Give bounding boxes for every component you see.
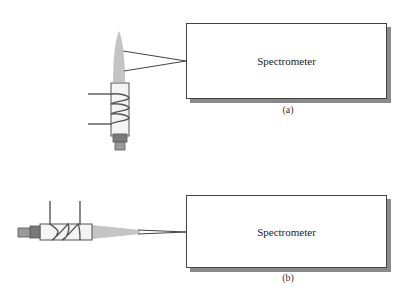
torch-nozzle-vertical [113, 134, 127, 142]
flame-horizontal [92, 225, 140, 239]
view-line-lower-b [138, 232, 186, 234]
view-line-upper [123, 51, 186, 61]
spectrometer-box-b: Spectrometer [186, 195, 387, 268]
flame-vertical [113, 31, 125, 82]
spectrometer-label-b: Spectrometer [257, 226, 316, 238]
caption-a: (a) [268, 104, 308, 115]
horizontal-torch [18, 201, 186, 240]
torch-nozzle-tip-vertical [115, 142, 125, 150]
spectrometer-box-a: Spectrometer [186, 23, 387, 99]
spectrometer-label-a: Spectrometer [257, 55, 316, 67]
view-line-lower [124, 61, 186, 71]
torch-nozzle-horizontal [30, 226, 40, 238]
vertical-torch [88, 31, 186, 150]
view-line-upper-b [138, 230, 186, 232]
torch-nozzle-tip-horizontal [18, 228, 30, 237]
caption-b: (b) [268, 272, 308, 283]
